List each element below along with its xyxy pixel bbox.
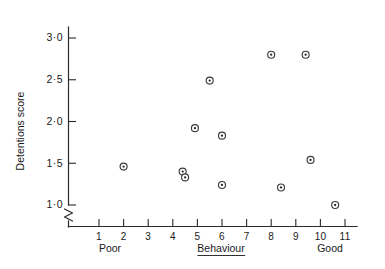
x-tick-label: 10 <box>315 231 327 242</box>
data-point <box>268 51 275 58</box>
y-tick-label: 2·0 <box>47 115 63 127</box>
y-axis-title-group: Detentions score <box>14 91 26 170</box>
x-tick-label: 2 <box>121 231 127 242</box>
data-point <box>182 174 189 181</box>
x-axis-title-group: Behaviour <box>197 242 245 256</box>
data-point-center-dot <box>184 176 186 178</box>
chart-canvas: 1·01·52·02·53·0 1234567891011 Detentions… <box>0 0 385 269</box>
x-tick-label: 5 <box>195 231 201 242</box>
y-tick-group: 1·01·52·02·53·0 <box>47 31 76 210</box>
data-point-center-dot <box>122 165 124 167</box>
data-point-center-dot <box>194 127 196 129</box>
data-point-center-dot <box>270 54 272 56</box>
data-point <box>302 51 309 58</box>
x-tick-label: 6 <box>219 231 225 242</box>
data-point-center-dot <box>309 159 311 161</box>
x-axis-title: Behaviour <box>197 242 245 254</box>
x-tick-label: 7 <box>244 231 250 242</box>
data-point-center-dot <box>181 170 183 172</box>
x-tick-label: 9 <box>293 231 299 242</box>
data-points-layer <box>120 51 339 208</box>
x-tick-label: 8 <box>268 231 274 242</box>
x-tick-group: 1234567891011 <box>96 219 351 242</box>
data-point-center-dot <box>221 184 223 186</box>
data-point <box>206 77 213 84</box>
x-tick-label: 4 <box>170 231 176 242</box>
x-tick-label: 1 <box>96 231 102 242</box>
data-point <box>120 163 127 170</box>
data-point <box>332 202 339 209</box>
data-point-center-dot <box>280 186 282 188</box>
data-point-center-dot <box>221 135 223 137</box>
x-tick-label: 11 <box>340 231 351 242</box>
data-point <box>219 181 226 188</box>
y-tick-label: 2·5 <box>47 73 63 85</box>
data-point-center-dot <box>334 204 336 206</box>
y-tick-label: 1·0 <box>47 198 63 210</box>
y-axis-title: Detentions score <box>14 91 26 170</box>
scatter-plot-figure: 1·01·52·02·53·0 1234567891011 Detentions… <box>0 0 385 269</box>
y-axis-break-icon <box>65 209 73 221</box>
x-tick-label: 3 <box>145 231 151 242</box>
y-axis <box>65 27 73 227</box>
data-point <box>191 125 198 132</box>
x-axis-low-endpoint-label: Poor <box>99 242 122 254</box>
data-point-center-dot <box>209 79 211 81</box>
data-point <box>278 184 285 191</box>
data-point <box>307 156 314 163</box>
y-tick-label: 3·0 <box>47 31 63 43</box>
data-point <box>219 132 226 139</box>
y-tick-label: 1·5 <box>47 157 63 169</box>
data-point-center-dot <box>304 54 306 56</box>
x-axis-high-endpoint-label: Good <box>317 242 343 254</box>
